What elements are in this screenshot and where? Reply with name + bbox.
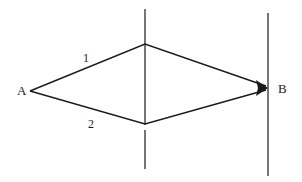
path-2: [30, 90, 266, 124]
source-label: A: [17, 83, 27, 98]
arrowhead-icon: [256, 80, 268, 96]
path-1-label: 1: [83, 51, 89, 65]
detector-label: B: [278, 81, 287, 96]
path-2-label: 2: [88, 117, 94, 131]
path-1: [30, 44, 266, 91]
double-slit-diagram: A B 1 2: [0, 0, 302, 182]
